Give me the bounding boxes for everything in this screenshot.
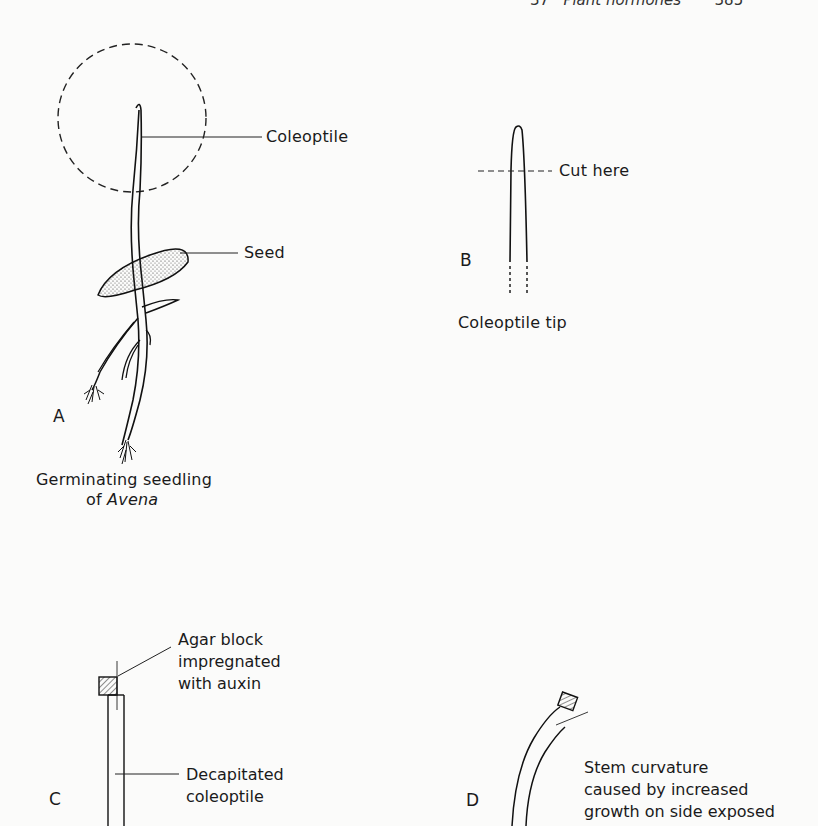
agar-label-line3: with auxin	[178, 673, 281, 695]
root-hairs-bottom	[118, 440, 136, 464]
curvature-line3: growth on side exposed	[584, 801, 775, 823]
stem-label-line1: Decapitated	[186, 764, 284, 786]
agar-label-line2: impregnated	[178, 651, 281, 673]
root-right-branch	[142, 300, 178, 313]
genus-name: Avena	[107, 490, 158, 509]
root-left	[92, 318, 138, 390]
stem-label-line2: coleoptile	[186, 786, 284, 808]
agar-label-line1: Agar block	[178, 629, 281, 651]
panel-d-drawing	[512, 692, 588, 826]
decapitated-coleoptile-label: Decapitated coleoptile	[186, 764, 284, 808]
coleoptile-tip-outline	[510, 126, 527, 262]
panel-a-caption-line1: Germinating seedling	[36, 470, 212, 490]
coleoptile-highlight-circle	[58, 44, 206, 192]
stem-curvature-label: Stem curvature caused by increased growt…	[584, 757, 775, 823]
panel-a-drawing	[58, 44, 262, 464]
panel-c-letter: C	[49, 789, 61, 809]
panel-a-letter: A	[53, 406, 65, 426]
panel-b-drawing	[478, 126, 552, 296]
curvature-line2: caused by increased	[584, 779, 775, 801]
panel-a-caption-line2: of Avena	[86, 490, 158, 510]
panel-d-letter: D	[466, 790, 479, 810]
seed-label: Seed	[244, 243, 285, 263]
coleoptile-label: Coleoptile	[266, 127, 348, 147]
caption-prefix: of	[86, 490, 107, 509]
agar-block-label: Agar block impregnated with auxin	[178, 629, 281, 695]
curved-stem-outer	[512, 707, 560, 826]
agar-block-tilted	[558, 692, 578, 711]
curvature-line1: Stem curvature	[584, 757, 775, 779]
cut-here-label: Cut here	[559, 161, 629, 181]
textbook-page: 37 Plant hormones 385	[0, 0, 818, 826]
agar-block	[99, 677, 117, 695]
figure-drawings	[0, 0, 818, 826]
panel-b-letter: B	[460, 250, 472, 270]
root-hairs-left	[84, 385, 104, 404]
panel-b-caption: Coleoptile tip	[458, 313, 567, 333]
panel-c-drawing	[99, 647, 179, 826]
